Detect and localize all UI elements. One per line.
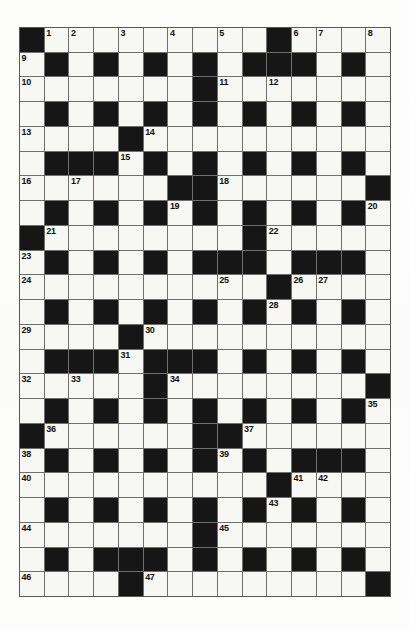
- grid-cell-open[interactable]: [366, 275, 390, 299]
- grid-cell-open[interactable]: [144, 523, 168, 547]
- grid-cell-open[interactable]: [292, 424, 316, 448]
- grid-cell-open[interactable]: 38: [20, 449, 44, 473]
- grid-cell-open[interactable]: [342, 127, 366, 151]
- grid-cell-open[interactable]: [94, 473, 118, 497]
- grid-cell-open[interactable]: [168, 473, 192, 497]
- grid-cell-open[interactable]: [193, 473, 217, 497]
- grid-cell-open[interactable]: 22: [267, 226, 291, 250]
- grid-cell-open[interactable]: [366, 325, 390, 349]
- grid-cell-open[interactable]: 36: [45, 424, 69, 448]
- grid-cell-open[interactable]: [292, 325, 316, 349]
- grid-cell-open[interactable]: [366, 300, 390, 324]
- grid-cell-open[interactable]: [267, 424, 291, 448]
- grid-cell-open[interactable]: [119, 374, 143, 398]
- grid-cell-open[interactable]: [342, 176, 366, 200]
- grid-cell-open[interactable]: [168, 424, 192, 448]
- grid-cell-open[interactable]: [119, 77, 143, 101]
- grid-cell-open[interactable]: [366, 473, 390, 497]
- grid-cell-open[interactable]: 15: [119, 152, 143, 176]
- grid-cell-open[interactable]: 16: [20, 176, 44, 200]
- grid-cell-open[interactable]: [168, 498, 192, 522]
- grid-cell-open[interactable]: 24: [20, 275, 44, 299]
- grid-cell-open[interactable]: [193, 374, 217, 398]
- grid-cell-open[interactable]: [342, 28, 366, 52]
- grid-cell-open[interactable]: [366, 350, 390, 374]
- grid-cell-open[interactable]: [94, 176, 118, 200]
- grid-cell-open[interactable]: 7: [317, 28, 341, 52]
- grid-cell-open[interactable]: [94, 28, 118, 52]
- grid-cell-open[interactable]: 37: [243, 424, 267, 448]
- grid-cell-open[interactable]: [69, 53, 93, 77]
- grid-cell-open[interactable]: [45, 523, 69, 547]
- grid-cell-open[interactable]: [69, 449, 93, 473]
- grid-cell-open[interactable]: [119, 523, 143, 547]
- crossword-grid[interactable]: 1234567891011121314151617181920212223242…: [19, 27, 391, 597]
- grid-cell-open[interactable]: [267, 152, 291, 176]
- grid-cell-open[interactable]: [20, 152, 44, 176]
- grid-cell-open[interactable]: [69, 399, 93, 423]
- grid-cell-open[interactable]: [218, 325, 242, 349]
- grid-cell-open[interactable]: [366, 226, 390, 250]
- grid-cell-open[interactable]: 4: [168, 28, 192, 52]
- grid-cell-open[interactable]: [45, 325, 69, 349]
- grid-cell-open[interactable]: [317, 350, 341, 374]
- grid-cell-open[interactable]: [267, 374, 291, 398]
- grid-cell-open[interactable]: 28: [267, 300, 291, 324]
- grid-cell-open[interactable]: [267, 572, 291, 596]
- grid-cell-open[interactable]: 2: [69, 28, 93, 52]
- grid-cell-open[interactable]: 27: [317, 275, 341, 299]
- grid-cell-open[interactable]: [20, 498, 44, 522]
- grid-cell-open[interactable]: [193, 572, 217, 596]
- grid-cell-open[interactable]: [69, 473, 93, 497]
- grid-cell-open[interactable]: [366, 127, 390, 151]
- grid-cell-open[interactable]: [119, 201, 143, 225]
- grid-cell-open[interactable]: [218, 300, 242, 324]
- grid-cell-open[interactable]: [119, 498, 143, 522]
- grid-cell-open[interactable]: 14: [144, 127, 168, 151]
- grid-cell-open[interactable]: 41: [292, 473, 316, 497]
- grid-cell-open[interactable]: [342, 77, 366, 101]
- grid-cell-open[interactable]: 23: [20, 251, 44, 275]
- grid-cell-open[interactable]: [119, 424, 143, 448]
- grid-cell-open[interactable]: [69, 251, 93, 275]
- grid-cell-open[interactable]: [366, 449, 390, 473]
- grid-cell-open[interactable]: [168, 572, 192, 596]
- grid-cell-open[interactable]: [366, 251, 390, 275]
- grid-cell-open[interactable]: [119, 176, 143, 200]
- grid-cell-open[interactable]: [317, 300, 341, 324]
- grid-cell-open[interactable]: 20: [366, 201, 390, 225]
- grid-cell-open[interactable]: [366, 77, 390, 101]
- grid-cell-open[interactable]: [267, 523, 291, 547]
- grid-cell-open[interactable]: [317, 523, 341, 547]
- grid-cell-open[interactable]: 45: [218, 523, 242, 547]
- grid-cell-open[interactable]: [119, 226, 143, 250]
- grid-cell-open[interactable]: [69, 424, 93, 448]
- grid-cell-open[interactable]: [342, 572, 366, 596]
- grid-cell-open[interactable]: [218, 102, 242, 126]
- grid-cell-open[interactable]: [168, 275, 192, 299]
- grid-cell-open[interactable]: [218, 350, 242, 374]
- grid-cell-open[interactable]: [218, 127, 242, 151]
- grid-cell-open[interactable]: [267, 399, 291, 423]
- grid-cell-open[interactable]: [69, 572, 93, 596]
- grid-cell-open[interactable]: [317, 498, 341, 522]
- grid-cell-open[interactable]: [292, 226, 316, 250]
- grid-cell-open[interactable]: [168, 399, 192, 423]
- grid-cell-open[interactable]: 42: [317, 473, 341, 497]
- grid-cell-open[interactable]: [69, 77, 93, 101]
- grid-cell-open[interactable]: [292, 374, 316, 398]
- grid-cell-open[interactable]: [218, 399, 242, 423]
- grid-cell-open[interactable]: [317, 176, 341, 200]
- grid-cell-open[interactable]: [144, 275, 168, 299]
- grid-cell-open[interactable]: [168, 325, 192, 349]
- grid-cell-open[interactable]: 8: [366, 28, 390, 52]
- grid-cell-open[interactable]: [144, 473, 168, 497]
- grid-cell-open[interactable]: 11: [218, 77, 242, 101]
- grid-cell-open[interactable]: [94, 424, 118, 448]
- grid-cell-open[interactable]: 44: [20, 523, 44, 547]
- grid-cell-open[interactable]: [119, 399, 143, 423]
- grid-cell-open[interactable]: [69, 498, 93, 522]
- grid-cell-open[interactable]: [119, 251, 143, 275]
- grid-cell-open[interactable]: 6: [292, 28, 316, 52]
- grid-cell-open[interactable]: [366, 523, 390, 547]
